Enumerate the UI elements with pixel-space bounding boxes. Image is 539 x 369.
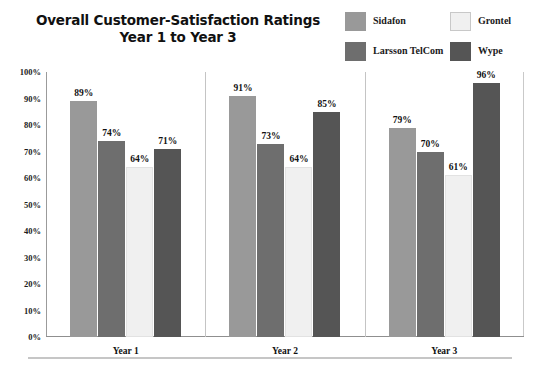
plot-area: 100%90%80%70%60%50%40%30%20%10%0%89%74%6… (46, 72, 524, 337)
bar-group: 79%70%61%96%Year 3 (365, 72, 524, 337)
bar-value-label: 64% (289, 154, 308, 165)
bar-larsson-telcom[interactable]: 73% (257, 144, 284, 337)
x-axis-category-label: Year 1 (46, 346, 205, 356)
bar-value-label: 64% (130, 154, 149, 165)
bar-value-label: 85% (317, 99, 336, 110)
x-axis-category-label: Year 2 (205, 346, 364, 356)
y-axis-tick-label: 60% (24, 173, 41, 183)
bar-sidafon[interactable]: 91% (229, 96, 256, 337)
bar-wype[interactable]: 96% (473, 83, 500, 337)
bar-value-label: 79% (393, 115, 412, 126)
legend-label-wype: Wype (478, 42, 503, 59)
y-axis-tick-label: 100% (20, 67, 41, 77)
chart-title: Overall Customer-Satisfaction Ratings Ye… (28, 12, 328, 46)
y-axis-tick-label: 90% (24, 94, 41, 104)
bar-wype[interactable]: 71% (154, 149, 181, 337)
chart-title-line-1: Overall Customer-Satisfaction Ratings (28, 12, 328, 29)
bar-grontel[interactable]: 61% (445, 175, 472, 337)
bar-group: 91%73%64%85%Year 2 (205, 72, 364, 337)
chart-title-line-2: Year 1 to Year 3 (28, 29, 328, 46)
bar-value-label: 61% (449, 162, 468, 173)
chart-container: Overall Customer-Satisfaction Ratings Ye… (0, 0, 539, 369)
bar-grontel[interactable]: 64% (126, 167, 153, 337)
y-axis-tick-label: 80% (24, 120, 41, 130)
bar-value-label: 96% (477, 70, 496, 81)
legend-swatch-wype (450, 42, 471, 61)
footer-divider (28, 357, 512, 359)
bar-larsson-telcom[interactable]: 74% (98, 141, 125, 337)
bar-value-label: 91% (233, 83, 252, 94)
bar-value-label: 74% (102, 128, 121, 139)
legend-label-larsson-telcom: Larsson TelCom (373, 42, 443, 59)
y-axis-tick-label: 70% (24, 147, 41, 157)
legend-swatch-larsson-telcom (345, 42, 366, 61)
legend-swatch-grontel (450, 12, 471, 31)
bar-wype[interactable]: 85% (313, 112, 340, 337)
y-axis-tick-label: 30% (24, 253, 41, 263)
legend-label-grontel: Grontel (478, 12, 511, 29)
group-separator (205, 72, 206, 337)
group-separator (365, 72, 366, 337)
y-axis-tick-label: 50% (24, 200, 41, 210)
legend-label-sidafon: Sidafon (373, 12, 406, 29)
bar-value-label: 89% (74, 88, 93, 99)
bar-value-label: 70% (421, 139, 440, 150)
bar-value-label: 73% (261, 131, 280, 142)
y-axis-tick-label: 10% (24, 306, 41, 316)
chart-legend: Sidafon Larsson TelCom Grontel Wype (345, 8, 539, 66)
bar-grontel[interactable]: 64% (285, 167, 312, 337)
legend-swatch-sidafon (345, 12, 366, 31)
bar-sidafon[interactable]: 89% (70, 101, 97, 337)
bar-larsson-telcom[interactable]: 70% (417, 152, 444, 338)
y-axis-tick-label: 0% (28, 332, 41, 342)
bar-group: 89%74%64%71%Year 1 (46, 72, 205, 337)
bar-sidafon[interactable]: 79% (389, 128, 416, 337)
y-axis-tick-label: 40% (24, 226, 41, 236)
x-axis-category-label: Year 3 (365, 346, 524, 356)
y-axis-tick-label: 20% (24, 279, 41, 289)
bar-value-label: 71% (158, 136, 177, 147)
